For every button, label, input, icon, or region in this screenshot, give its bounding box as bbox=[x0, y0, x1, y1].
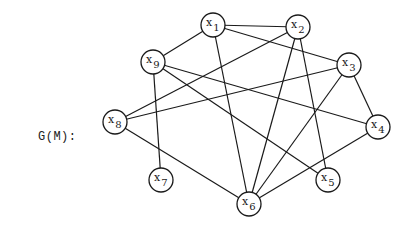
node-x7: x7 bbox=[149, 168, 173, 192]
node-x4: x4 bbox=[366, 115, 390, 139]
node-x1: x1 bbox=[201, 13, 225, 37]
graph-diagram: x1x2x3x4x5x6x7x8x9 bbox=[0, 0, 416, 229]
node-x8: x8 bbox=[103, 110, 127, 134]
node-x3: x3 bbox=[337, 53, 361, 77]
edge-x4-x6 bbox=[249, 127, 378, 204]
node-x6: x6 bbox=[237, 192, 261, 216]
edge-x2-x6 bbox=[249, 27, 298, 204]
edge-x2-x5 bbox=[298, 27, 328, 180]
node-x9: x9 bbox=[141, 50, 165, 74]
edge-x1-x2 bbox=[213, 25, 298, 27]
edge-x1-x3 bbox=[213, 25, 349, 65]
edge-x8-x6 bbox=[115, 122, 249, 204]
edge-x9-x7 bbox=[153, 62, 161, 180]
node-x2: x2 bbox=[286, 15, 310, 39]
node-x5: x5 bbox=[316, 168, 340, 192]
edge-x2-x8 bbox=[115, 27, 298, 122]
